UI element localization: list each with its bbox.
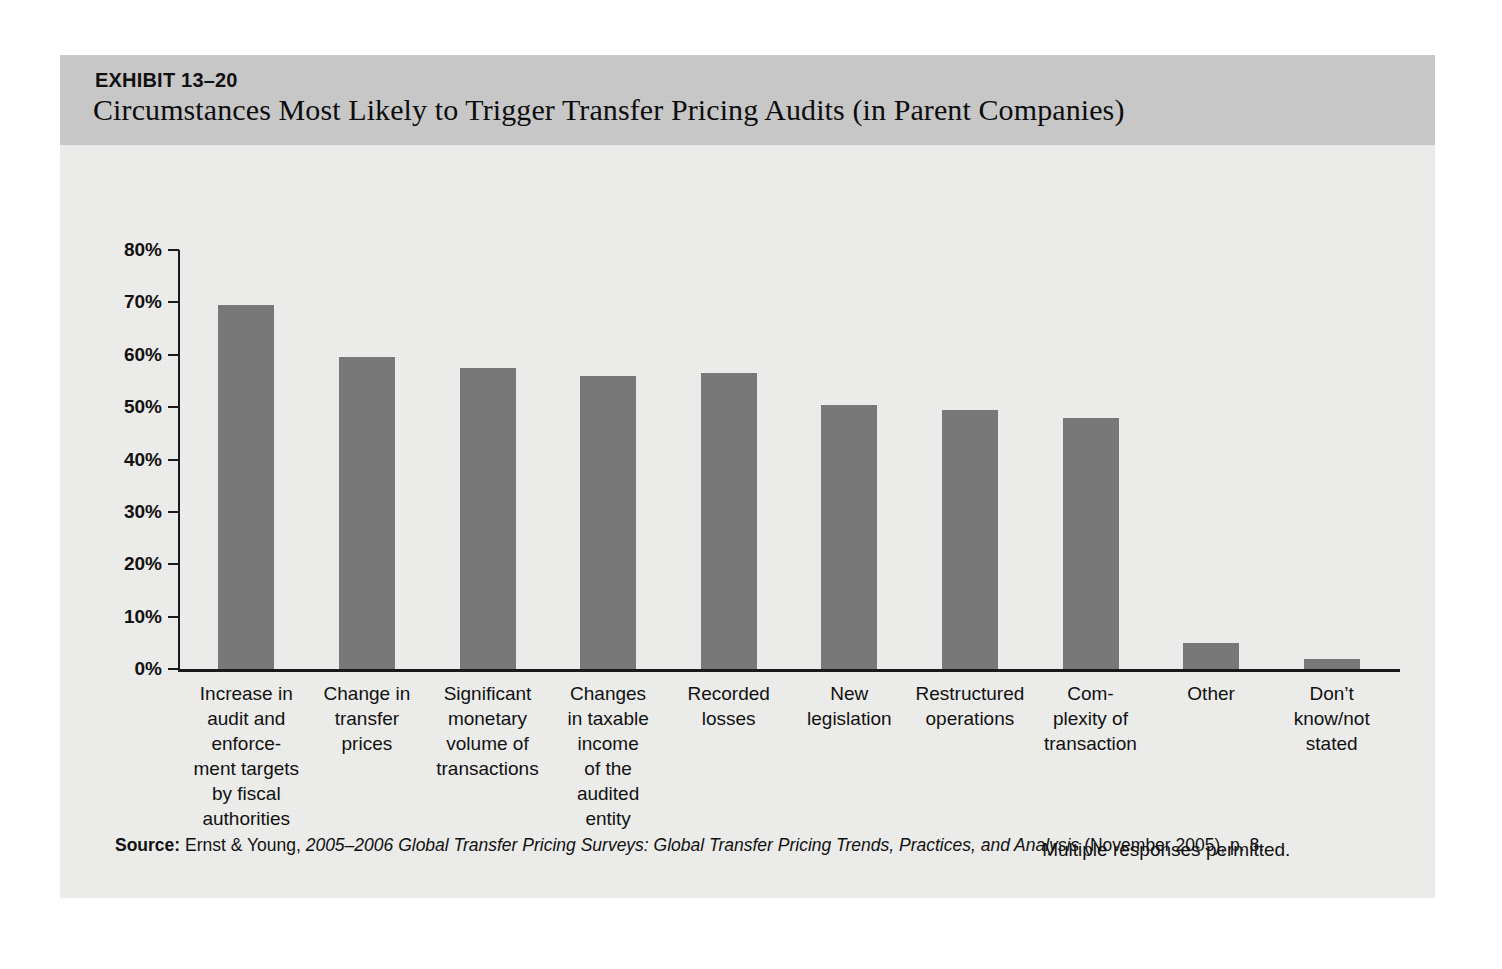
y-axis-tick-mark bbox=[168, 459, 179, 461]
y-axis-tick-label: 20% bbox=[100, 553, 162, 575]
exhibit-number: EXHIBIT 13–20 bbox=[95, 69, 238, 92]
category-label-line: stated bbox=[1271, 731, 1392, 756]
y-axis-tick-label: 50% bbox=[100, 396, 162, 418]
x-axis-category-label: Changesin taxableincomeof theauditedenti… bbox=[548, 681, 669, 831]
x-axis-category-label: Recordedlosses bbox=[668, 681, 789, 731]
category-label-line: prices bbox=[307, 731, 428, 756]
y-axis-tick-mark bbox=[168, 249, 179, 251]
bar bbox=[1183, 643, 1239, 669]
y-axis-tick-label: 30% bbox=[100, 501, 162, 523]
bar-chart: 0%10%20%30%40%50%60%70%80% Increase inau… bbox=[60, 145, 1435, 898]
category-label-line: plexity of bbox=[1030, 706, 1151, 731]
category-label-line: entity bbox=[548, 806, 669, 831]
category-label-line: Change in bbox=[307, 681, 428, 706]
category-label-line: authorities bbox=[186, 806, 307, 831]
bar bbox=[460, 368, 516, 669]
y-axis-tick-mark bbox=[168, 668, 179, 670]
category-label-line: operations bbox=[910, 706, 1031, 731]
bar bbox=[339, 357, 395, 669]
category-label-line: enforce- bbox=[186, 731, 307, 756]
category-label-line: losses bbox=[668, 706, 789, 731]
category-label-line: know/not bbox=[1271, 706, 1392, 731]
category-label-line: Other bbox=[1151, 681, 1272, 706]
category-label-line: ment targets bbox=[186, 756, 307, 781]
exhibit-title: Circumstances Most Likely to Trigger Tra… bbox=[93, 93, 1124, 127]
source-label: Source: bbox=[115, 835, 180, 855]
y-axis-tick-mark bbox=[168, 616, 179, 618]
category-label-line: by fiscal bbox=[186, 781, 307, 806]
y-axis-tick-label: 60% bbox=[100, 344, 162, 366]
y-axis-tick-label: 10% bbox=[100, 606, 162, 628]
category-label-line: audit and bbox=[186, 706, 307, 731]
bar bbox=[1304, 659, 1360, 669]
bar bbox=[1063, 418, 1119, 669]
x-axis-category-label: Change intransferprices bbox=[307, 681, 428, 756]
bar bbox=[580, 376, 636, 669]
category-label-line: Restructured bbox=[910, 681, 1031, 706]
category-label-line: Significant bbox=[427, 681, 548, 706]
category-label-line: Don’t bbox=[1271, 681, 1392, 706]
y-axis-tick-mark bbox=[168, 563, 179, 565]
bar bbox=[942, 410, 998, 669]
category-label-line: Recorded bbox=[668, 681, 789, 706]
category-label-line: income bbox=[548, 731, 669, 756]
x-axis-category-label: Increase inaudit andenforce-ment targets… bbox=[186, 681, 307, 831]
x-axis-category-label: Other bbox=[1151, 681, 1272, 706]
y-axis-tick-mark bbox=[168, 406, 179, 408]
x-axis-category-label: Newlegislation bbox=[789, 681, 910, 731]
y-axis-tick-mark bbox=[168, 511, 179, 513]
x-axis-category-label: Restructuredoperations bbox=[910, 681, 1031, 731]
y-axis-tick-label: 70% bbox=[100, 291, 162, 313]
category-label-line: audited bbox=[548, 781, 669, 806]
x-axis-category-label: Don’tknow/notstated bbox=[1271, 681, 1392, 756]
source-tail: (November 2005), p. 8. bbox=[1079, 835, 1264, 855]
category-label-line: in taxable bbox=[548, 706, 669, 731]
category-label-line: New bbox=[789, 681, 910, 706]
y-axis-tick-label: 80% bbox=[100, 239, 162, 261]
y-axis-tick-label: 40% bbox=[100, 449, 162, 471]
y-axis-tick-mark bbox=[168, 354, 179, 356]
source-work-title: 2005–2006 Global Transfer Pricing Survey… bbox=[306, 835, 1080, 855]
category-label-line: of the bbox=[548, 756, 669, 781]
x-axis-category-label: Significantmonetaryvolume oftransactions bbox=[427, 681, 548, 781]
category-label-line: legislation bbox=[789, 706, 910, 731]
category-label-line: volume of bbox=[427, 731, 548, 756]
exhibit-sheet: EXHIBIT 13–20 Circumstances Most Likely … bbox=[60, 55, 1435, 898]
y-axis-tick-label: 0% bbox=[100, 658, 162, 680]
category-label-line: transaction bbox=[1030, 731, 1151, 756]
y-axis-tick-mark bbox=[168, 301, 179, 303]
category-label-line: Increase in bbox=[186, 681, 307, 706]
category-label-line: Changes bbox=[548, 681, 669, 706]
source-publisher: Ernst & Young, bbox=[180, 835, 306, 855]
bar bbox=[218, 305, 274, 669]
category-label-line: transactions bbox=[427, 756, 548, 781]
category-label-line: Com- bbox=[1030, 681, 1151, 706]
scanned-page: EXHIBIT 13–20 Circumstances Most Likely … bbox=[0, 0, 1502, 969]
x-axis-category-label: Com-plexity oftransaction bbox=[1030, 681, 1151, 756]
source-note: Source: Ernst & Young, 2005–2006 Global … bbox=[115, 835, 1264, 856]
bar bbox=[701, 373, 757, 669]
x-axis-line bbox=[178, 669, 1400, 672]
category-label-line: monetary bbox=[427, 706, 548, 731]
bar bbox=[821, 405, 877, 669]
exhibit-header-band: EXHIBIT 13–20 Circumstances Most Likely … bbox=[60, 55, 1435, 145]
category-label-line: transfer bbox=[307, 706, 428, 731]
